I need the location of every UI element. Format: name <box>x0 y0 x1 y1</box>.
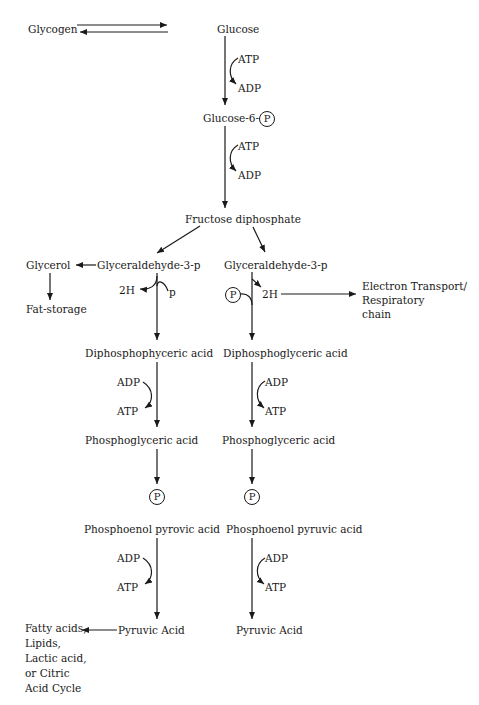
electron-transport-line-3: chain <box>362 307 472 321</box>
left-adp-label: ADP <box>117 376 140 388</box>
electron-transport-line-2: Respiratory <box>362 293 472 307</box>
adp-label-2: ADP <box>238 169 261 181</box>
right-atp-label: ATP <box>265 405 286 417</box>
right-pyruvic-label: Pyruvic Acid <box>236 624 303 636</box>
atp-adp-curve-1 <box>230 58 238 84</box>
right-2h-label: 2H <box>262 288 278 300</box>
fructose-to-right-g3p-arrow <box>253 227 265 252</box>
fate-acid-cycle: Acid Cycle <box>25 681 95 696</box>
right-pep-label: Phosphoenol pyruvic acid <box>226 523 363 535</box>
right-adp-atp-curve <box>257 381 265 408</box>
adp-label-1: ADP <box>238 82 261 94</box>
fate-fatty-acids: Fatty acids, <box>25 621 95 636</box>
right-2h-curve <box>252 279 261 287</box>
right-dpg-label: Diphosphoglyceric acid <box>223 347 348 359</box>
left-pyruvic-label: Pyruvic Acid <box>118 624 185 636</box>
fates-label: Fatty acids, Lipids, Lactic acid, or Cit… <box>25 621 95 696</box>
left-p-label: p <box>169 286 176 298</box>
left-adp-label-2: ADP <box>117 552 140 564</box>
right-g3p-label: Glyceraldehyde-3-p <box>224 259 327 271</box>
left-phosphate-circle-icon: P <box>149 489 165 505</box>
glycogen-label: Glycogen <box>28 23 78 35</box>
left-dpg-label: Diphosphophyceric acid <box>85 347 213 359</box>
glucose-6-text: Glucose-6- <box>203 112 259 124</box>
fructose-to-left-g3p-arrow <box>157 226 200 253</box>
fate-lactic-acid: Lactic acid, <box>25 651 95 666</box>
left-atp-label: ATP <box>117 405 138 417</box>
electron-transport-line-1: Electron Transport/ <box>362 279 472 293</box>
right-adp-label: ADP <box>265 376 288 388</box>
left-2h-label: 2H <box>119 284 135 296</box>
right-atp-label-2: ATP <box>265 581 286 593</box>
atp-label-1: ATP <box>238 53 259 65</box>
atp-label-2: ATP <box>238 140 259 152</box>
right-phosphate-circle-icon: P <box>225 287 241 303</box>
left-pga-label: Phosphoglyceric acid <box>85 434 198 446</box>
left-g3p-label: Glyceraldehyde-3-p <box>97 259 200 271</box>
fructose-diphosphate-label: Fructose diphosphate <box>185 213 301 225</box>
electron-transport-label: Electron Transport/ Respiratory chain <box>362 279 472 321</box>
left-atp-label-2: ATP <box>117 581 138 593</box>
right-adp-atp-curve-2 <box>257 558 265 584</box>
fate-or-citric: or Citric <box>25 666 95 681</box>
glucose-6-p-label: Glucose-6-P <box>203 111 275 127</box>
left-pep-label: Phosphoenol pyrovic acid <box>84 523 220 535</box>
left-2h-curve <box>140 276 157 289</box>
left-adp-atp-curve <box>143 382 152 408</box>
glycerol-label: Glycerol <box>26 259 70 271</box>
left-adp-atp-curve-2 <box>143 558 152 584</box>
right-phosphate-circle-icon-2: P <box>244 489 260 505</box>
atp-adp-curve-2 <box>230 145 238 171</box>
left-p-curve <box>157 282 168 291</box>
phosphate-circle-icon: P <box>259 111 275 127</box>
glucose-label: Glucose <box>217 23 259 35</box>
fate-lipids: Lipids, <box>25 636 95 651</box>
right-p-curve <box>240 294 252 305</box>
right-adp-label-2: ADP <box>265 552 288 564</box>
fat-storage-label: Fat-storage <box>26 303 87 315</box>
right-pga-label: Phosphoglyceric acid <box>222 434 335 446</box>
